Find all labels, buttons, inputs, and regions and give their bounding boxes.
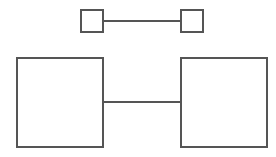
node-small-left[interactable] <box>81 10 103 32</box>
diagram-canvas <box>0 0 276 157</box>
edge-layer <box>102 21 182 102</box>
diagram-svg <box>0 0 276 157</box>
node-layer <box>17 10 267 147</box>
node-large-left[interactable] <box>17 58 103 147</box>
node-small-right[interactable] <box>181 10 203 32</box>
node-large-right[interactable] <box>181 58 267 147</box>
